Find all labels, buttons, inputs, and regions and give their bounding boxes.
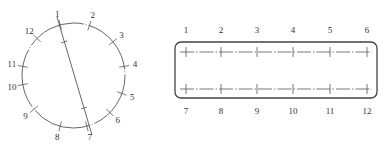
rect-top-label: 1 — [184, 25, 189, 35]
circle-point-tick — [109, 39, 117, 45]
rect-bottom-label: 7 — [184, 106, 189, 116]
rect-top-label: 4 — [291, 25, 296, 35]
circle-point-label: 9 — [23, 111, 28, 121]
diagram-canvas: 123456789101112 172839410511612 — [0, 0, 384, 150]
circle-point-label: 5 — [130, 92, 135, 102]
rectangle-ticks — [186, 47, 367, 94]
rect-top-label: 3 — [255, 25, 260, 35]
circle-labels: 123456789101112 — [7, 9, 137, 142]
circle-point-label: 10 — [7, 82, 17, 92]
circle-point-label: 11 — [8, 59, 17, 69]
circle-point-label: 3 — [119, 30, 124, 40]
rect-top-label: 2 — [219, 25, 224, 35]
circle-point-label: 6 — [115, 115, 120, 125]
circle-point-label: 1 — [55, 9, 60, 19]
rect-bottom-label: 10 — [289, 106, 299, 116]
rect-bottom-label: 12 — [363, 106, 372, 116]
rect-bottom-label: 8 — [219, 106, 224, 116]
circle-ticks — [18, 20, 129, 131]
rect-bottom-label: 11 — [326, 106, 335, 116]
circle-point-label: 4 — [133, 59, 138, 69]
circle-diagram: 123456789101112 — [7, 9, 137, 142]
rect-bottom-label: 9 — [255, 106, 260, 116]
circle-point-label: 7 — [87, 132, 92, 142]
circle-point-label: 12 — [25, 26, 34, 36]
circle-point-tick — [30, 106, 38, 112]
rectangle-outline — [175, 42, 377, 98]
circle-point-label: 8 — [55, 132, 60, 142]
rect-top-label: 5 — [328, 25, 333, 35]
rect-top-label: 6 — [365, 25, 370, 35]
diameter-line — [57, 17, 92, 135]
rectangle-diagram: 172839410511612 — [175, 25, 377, 116]
circle-point-label: 2 — [91, 10, 96, 20]
rectangle-labels: 172839410511612 — [184, 25, 372, 116]
